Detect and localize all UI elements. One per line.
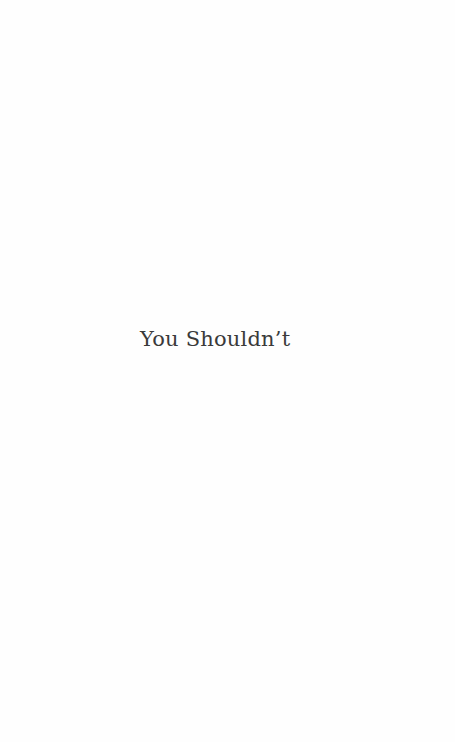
book-page: You Shouldn’t	[0, 0, 455, 742]
page-title: You Shouldn’t	[140, 324, 290, 354]
